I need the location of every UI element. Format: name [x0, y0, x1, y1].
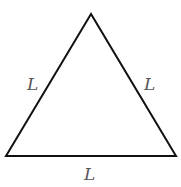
right-side-label: L: [143, 74, 155, 94]
left-side-label: L: [26, 74, 38, 94]
triangle-diagram: L L L: [0, 0, 181, 187]
bottom-side-label: L: [83, 164, 95, 184]
